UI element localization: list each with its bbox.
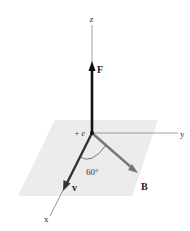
- field-label: B: [141, 181, 148, 192]
- charge-dot: [90, 131, 94, 135]
- force-arrowhead: [89, 61, 96, 71]
- angle-label: 60°: [86, 167, 99, 177]
- charge-label: + e: [74, 129, 85, 138]
- x-axis-label: x: [44, 214, 49, 224]
- z-axis-label: z: [90, 14, 94, 24]
- force-diagram: z y x F v B + e 60°: [0, 0, 190, 231]
- velocity-label: v: [72, 182, 77, 193]
- xy-plane: [18, 120, 158, 196]
- y-axis-label: y: [180, 129, 185, 139]
- force-label: F: [97, 64, 103, 75]
